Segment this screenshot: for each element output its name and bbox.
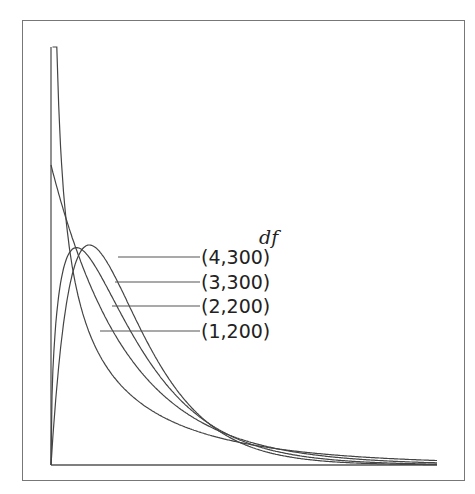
legend-label-1-200: (1,200) [201,320,270,342]
legend-label-3-300: (3,300) [201,271,270,293]
f-distribution-chart: df (4,300) (3,300) (2,200) (1,200) [0,0,475,494]
legend-label-4-300: (4,300) [201,246,270,268]
legend-label-2-200: (2,200) [201,295,270,317]
legend-title: df [259,226,281,248]
